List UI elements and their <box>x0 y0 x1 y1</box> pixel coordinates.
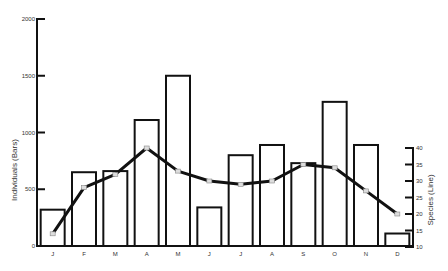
line-marker <box>207 179 212 183</box>
x-tick-label: M <box>176 251 181 257</box>
bar <box>385 234 409 246</box>
line-marker <box>270 179 275 183</box>
y-tick-label: 0 <box>32 243 36 249</box>
y2-tick-label: 10 <box>416 244 423 250</box>
x-tick-label: J <box>208 251 211 257</box>
bar <box>229 155 253 246</box>
x-tick-label: J <box>239 251 242 257</box>
y-tick-label: 500 <box>25 186 36 192</box>
bar <box>166 76 190 246</box>
y-tick-label: 1500 <box>22 73 36 79</box>
line-marker <box>144 146 149 150</box>
x-tick-label: J <box>51 251 54 257</box>
line-marker <box>364 189 369 193</box>
line-marker <box>395 212 400 216</box>
x-tick-label: F <box>82 251 86 257</box>
y2-axis-title: Species (Line) <box>426 174 435 225</box>
bar <box>41 210 65 246</box>
y2-tick-label: 40 <box>416 145 423 151</box>
line-marker <box>50 232 55 236</box>
bar <box>197 207 221 246</box>
x-tick-label: S <box>301 251 305 257</box>
line-marker <box>82 186 87 190</box>
line-marker <box>113 172 118 176</box>
bar <box>103 171 127 246</box>
y2-tick-label: 25 <box>416 195 423 201</box>
y2-tick-label: 15 <box>416 228 423 234</box>
line-marker <box>176 169 181 173</box>
y2-tick-label: 35 <box>416 162 423 168</box>
bar <box>135 120 159 246</box>
bar <box>260 145 284 246</box>
x-tick-label: D <box>395 251 400 257</box>
x-tick-label: A <box>145 251 149 257</box>
x-tick-label: A <box>270 251 274 257</box>
y-tick-label: 1000 <box>22 130 36 136</box>
x-tick-label: M <box>113 251 118 257</box>
chart: 0500100015002000Individuals (Bars)101520… <box>0 0 448 271</box>
x-tick-label: O <box>332 251 337 257</box>
x-tick-label: N <box>364 251 368 257</box>
line-marker <box>332 166 337 170</box>
bar <box>291 163 315 246</box>
line-marker <box>238 182 243 186</box>
y-axis-title: Individuals (Bars) <box>10 139 19 201</box>
y-tick-label: 2000 <box>22 16 36 22</box>
y2-tick-label: 20 <box>416 211 423 217</box>
y2-tick-label: 30 <box>416 178 423 184</box>
line-marker <box>301 163 306 167</box>
